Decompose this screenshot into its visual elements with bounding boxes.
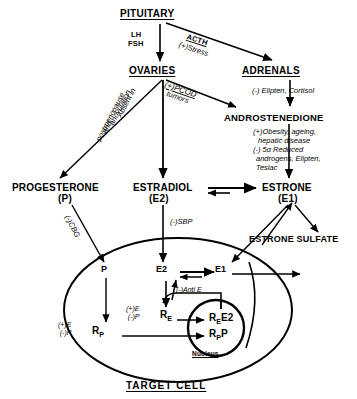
arrow-label-sbp: (-)SBP bbox=[170, 218, 193, 226]
hormone-estrone: ESTRONE bbox=[262, 183, 312, 194]
arrow-estrone-to-sulfate bbox=[295, 205, 318, 232]
cell-molecule-e2: E2 bbox=[156, 265, 167, 274]
organ-ovaries: OVARIES bbox=[129, 66, 175, 77]
receptor-p: RP bbox=[92, 326, 104, 339]
nucleus-label: Nucleus bbox=[192, 351, 219, 358]
hormone-estradiol: ESTRADIOL bbox=[133, 183, 193, 194]
arrow-ovaries-progesterone bbox=[60, 80, 162, 178]
hormone-androstenedione: ANDROSTENEDIONE bbox=[224, 113, 324, 123]
receptor-p-subscript: P bbox=[99, 330, 104, 339]
receptor-p-minus: (-)P bbox=[60, 329, 72, 336]
organ-pituitary: PITUITARY bbox=[120, 9, 174, 20]
hormone-estradiol-abbr: (E2) bbox=[149, 194, 169, 205]
receptor-e-subscript: E bbox=[167, 314, 172, 323]
hormone-estrone-sulfate: ESTRONE SULFATE bbox=[249, 235, 338, 244]
cell-molecule-p: P bbox=[101, 265, 107, 274]
complex-p-ligand: P bbox=[221, 328, 228, 339]
organ-adrenals: ADRENALS bbox=[242, 66, 300, 77]
cell-inner-curve bbox=[246, 262, 255, 348]
target-cell-label: TARGET CELL bbox=[126, 381, 206, 392]
receptor-e-minus: (-)P bbox=[128, 313, 140, 320]
hormone-pathway-diagram: PITUITARY LH FSH ACTH (+)Stress OVARIES … bbox=[0, 0, 357, 399]
diagram-arrows bbox=[0, 0, 357, 399]
arrow-label-fsh: FSH bbox=[128, 40, 144, 48]
arrow-label-lh: LH bbox=[131, 31, 141, 39]
hormone-estrone-abbr: (E1) bbox=[278, 194, 298, 205]
receptor-e-modifiers: (+)E (-)P bbox=[126, 305, 139, 321]
receptor-p-modifiers: (+)E (-)P bbox=[58, 321, 71, 337]
receptor-e-plus: (+)E bbox=[126, 305, 139, 312]
cell-molecule-e1: E1 bbox=[215, 265, 226, 274]
arrow-label-anti-e: (-)Anti E bbox=[176, 286, 202, 293]
target-cell-membrane bbox=[64, 238, 292, 382]
hormone-progesterone: PROGESTERONE bbox=[12, 183, 99, 194]
nuclear-complex-p: RPP bbox=[209, 329, 228, 342]
receptor-p-plus: (+)E bbox=[58, 321, 71, 328]
nuclear-complex-e: REE2 bbox=[209, 313, 233, 326]
hormone-progesterone-abbr: (P) bbox=[58, 194, 72, 205]
receptor-e: RE bbox=[160, 310, 172, 323]
complex-e-ligand: E2 bbox=[221, 312, 233, 323]
modifier-andro-line5: Teslac bbox=[256, 163, 277, 173]
modifier-adrenals-inhibit: (-) Elipten, Cortisol bbox=[252, 86, 314, 96]
